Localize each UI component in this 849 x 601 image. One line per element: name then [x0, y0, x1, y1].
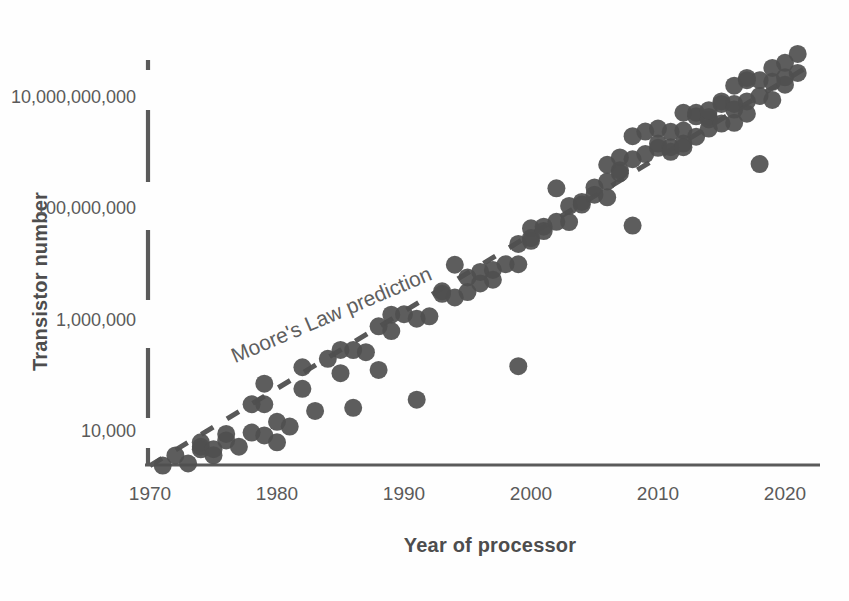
data-point — [509, 255, 527, 273]
data-point — [446, 256, 464, 274]
data-point — [255, 395, 273, 413]
chart-page: Transistor number Year of processor 10,0… — [0, 0, 849, 601]
data-point — [268, 433, 286, 451]
data-point — [560, 213, 578, 231]
data-point — [509, 357, 527, 375]
data-point — [420, 307, 438, 325]
data-point — [230, 438, 248, 456]
x-tick-label: 2020 — [764, 483, 806, 504]
y-tick-label: 1,000,000 — [56, 310, 136, 330]
data-point — [751, 155, 769, 173]
data-point — [205, 446, 223, 464]
data-point — [598, 188, 616, 206]
data-point — [357, 343, 375, 361]
data-point — [293, 380, 311, 398]
data-point — [789, 64, 807, 82]
data-point — [611, 164, 629, 182]
data-point — [255, 375, 273, 393]
y-tick-label: 100,000,000 — [36, 198, 136, 218]
data-point — [179, 455, 197, 473]
data-point — [370, 361, 388, 379]
data-points — [154, 45, 807, 475]
data-point — [382, 322, 400, 340]
data-point — [624, 217, 642, 235]
data-point — [547, 179, 565, 197]
x-tick-label: 2000 — [510, 483, 552, 504]
data-point — [738, 105, 756, 123]
data-point — [332, 364, 350, 382]
data-point — [344, 399, 362, 417]
scatter-plot: 10,0001,000,000100,000,00010,000,000,000… — [0, 0, 849, 601]
data-point — [408, 391, 426, 409]
x-tick-labels: 197019801990200020102020 — [129, 483, 806, 504]
y-tick-label: 10,000,000,000 — [11, 87, 136, 107]
data-point — [763, 91, 781, 109]
data-point — [293, 358, 311, 376]
data-point — [281, 418, 299, 436]
x-tick-label: 1990 — [383, 483, 425, 504]
data-point — [306, 402, 324, 420]
x-tick-label: 2010 — [637, 483, 679, 504]
data-point — [484, 271, 502, 289]
y-tick-label: 10,000 — [81, 421, 136, 441]
x-tick-label: 1980 — [256, 483, 298, 504]
x-tick-label: 1970 — [129, 483, 171, 504]
data-point — [789, 45, 807, 63]
y-tick-labels: 10,0001,000,000100,000,00010,000,000,000 — [11, 87, 136, 441]
